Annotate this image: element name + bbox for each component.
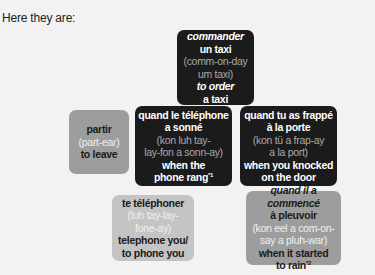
phrase-card-quand-il-a-commence: quand il a commencé à pleuvoir (kon eel … [246,191,341,265]
phrase-card-commander-un-taxi: commander un taxi (comm-on-day um taxi) … [177,30,254,105]
pronunciation-text: (comm-on-day [183,55,247,68]
phrase-card-quand-le-telephone: quand le téléphone a sonné (kon luh tay-… [135,106,232,186]
english-text: when the [162,159,205,172]
intro-text: Here they are: [2,11,75,25]
pronunciation-text: um taxi) [198,68,233,81]
french-text: quand il a commencé [249,184,338,209]
french-text: un taxi [200,43,232,56]
footnote-marker: *2 [306,260,311,266]
english-text: on the door [261,171,315,184]
french-text: te téléphoner [122,197,184,210]
english-text: telephone you/ [118,234,188,247]
french-text: à la porte [267,121,311,134]
phrase-card-te-telephoner: te téléphoner (tuh tay-lay- fone-ay) tel… [112,195,194,261]
english-text: to leave [81,148,118,161]
pronunciation-text: say a pluh-war) [260,234,327,247]
pronunciation-text: a la port) [269,146,307,159]
pronunciation-text: (tuh tay-lay- [127,209,179,222]
pronunciation-text: lay-fon a sonn-ay) [144,146,223,159]
french-text: partir [86,123,111,136]
english-text: to phone you [122,247,184,260]
footnote-marker: *1 [208,172,213,178]
english-text: to order [197,80,234,93]
english-text: to rain*2 [276,259,311,272]
english-text: when you knocked [244,159,333,172]
pronunciation-text: (kon eel a com-on- [252,222,334,235]
pronunciation-text: (kon luh tay- [157,134,211,147]
french-text: quand tu as frappé [244,109,333,122]
phrase-card-quand-tu-as-frappe: quand tu as frappé à la porte (kon tü a … [240,106,337,186]
french-text: à pleuvoir [270,209,317,222]
french-text: quand le téléphone [138,109,228,122]
french-text: commander [187,30,244,43]
english-text: phone rang*1 [154,171,213,184]
french-text: a sonné [165,121,203,134]
pronunciation-text: (part-ear) [79,136,120,149]
pronunciation-text: (kon tü a frap-ay [253,134,324,147]
english-text: a taxi [203,93,228,106]
phrase-card-partir: partir (part-ear) to leave [69,110,129,174]
pronunciation-text: fone-ay) [135,222,171,235]
english-text: when it started [259,247,329,260]
